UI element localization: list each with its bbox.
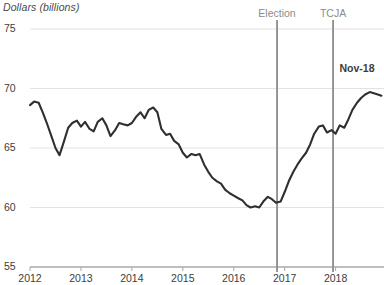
x-axis-tick-label: 2017	[265, 273, 305, 284]
y-axis-tick-label: 55	[4, 261, 26, 272]
annotation-label-tcja: TCJA	[305, 8, 361, 19]
annotation-rules	[277, 20, 333, 272]
x-axis-tick-label: 2016	[214, 273, 254, 284]
chart-plot-area	[0, 0, 384, 285]
x-axis-tick-label: 2018	[316, 273, 356, 284]
annotation-label-election: Election	[249, 8, 305, 19]
y-axis-tick-label: 60	[4, 202, 26, 213]
x-axis-tick-marks	[30, 267, 336, 271]
x-axis-tick-label: 2013	[61, 273, 101, 284]
data-series-line	[30, 92, 381, 207]
y-axis-tick-label: 65	[4, 142, 26, 153]
y-axis-tick-label: 70	[4, 83, 26, 94]
x-axis-tick-label: 2012	[10, 273, 50, 284]
x-axis-tick-label: 2014	[112, 273, 152, 284]
y-axis-tick-label: 75	[4, 23, 26, 34]
chart-container: Dollars (billions) 5560657075 2012201320…	[0, 0, 384, 285]
endpoint-label: Nov-18	[339, 63, 374, 74]
x-axis-tick-label: 2015	[163, 273, 203, 284]
gridlines	[30, 29, 384, 267]
